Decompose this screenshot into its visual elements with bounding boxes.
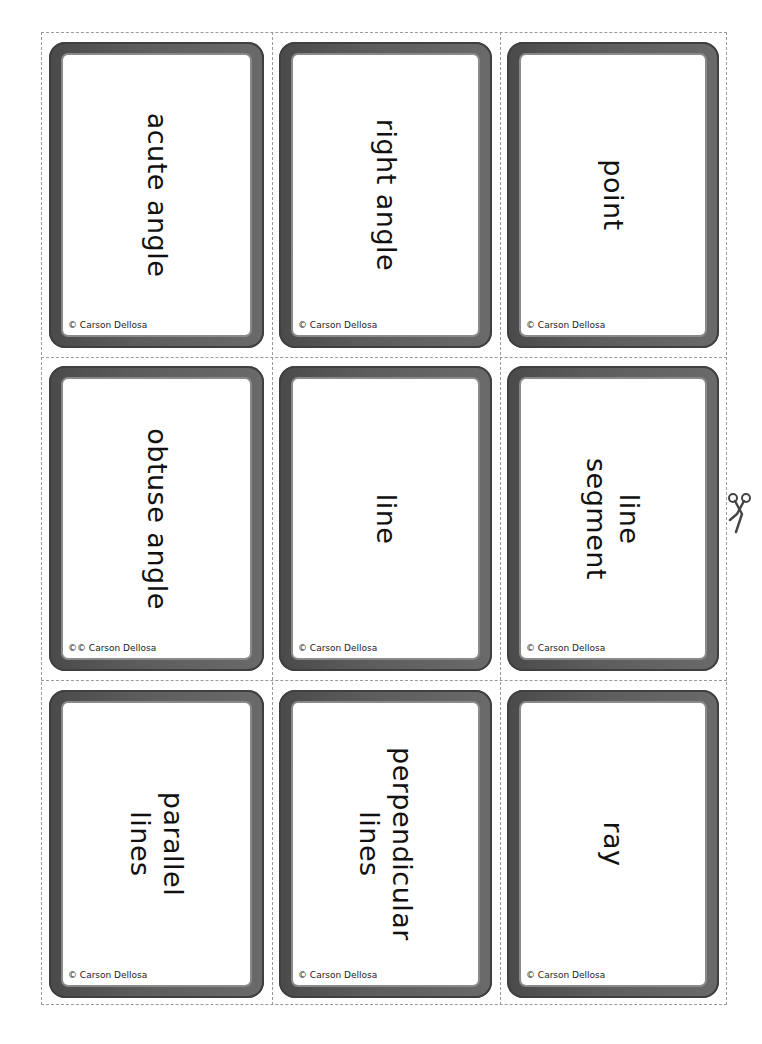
card-face: right angle © Carson Dellosa [293,55,478,335]
copyright-text: © Carson Dellosa [298,320,377,330]
copyright-text: © Carson Dellosa [526,320,605,330]
card-term: right angle [369,119,402,271]
flash-card-line: line © Carson Dellosa [279,366,492,671]
card-face: perpendicular lines © Carson Dellosa [293,703,478,985]
cut-line-horizontal-1 [41,357,727,358]
flash-card-right-angle: right angle © Carson Dellosa [279,42,492,348]
cut-line-vertical-2 [500,32,501,1005]
card-term: line [369,493,402,544]
card-term: ray [597,821,630,866]
flash-card-perpendicular-lines: perpendicular lines © Carson Dellosa [279,690,492,998]
cut-line-vertical-1 [272,32,273,1005]
card-face: parallel lines © Carson Dellosa [63,703,250,985]
card-face: obtuse angle ©© Carson Dellosa [63,379,250,658]
card-term: parallel lines [124,792,190,896]
copyright-text: © Carson Dellosa [526,970,605,980]
copyright-text: © Carson Dellosa [68,320,147,330]
copyright-text: © Carson Dellosa [526,643,605,653]
card-face: line segment © Carson Dellosa [521,379,705,658]
copyright-text: ©© Carson Dellosa [68,643,156,653]
copyright-text: © Carson Dellosa [68,970,147,980]
card-face: ray © Carson Dellosa [521,703,705,985]
card-term: line segment [580,458,646,580]
flash-card-point: point © Carson Dellosa [507,42,719,348]
card-term: point [597,159,630,230]
flash-card-line-segment: line segment © Carson Dellosa [507,366,719,671]
flash-card-obtuse-angle: obtuse angle ©© Carson Dellosa [49,366,264,671]
flash-card-parallel-lines: parallel lines © Carson Dellosa [49,690,264,998]
flash-card-ray: ray © Carson Dellosa [507,690,719,998]
flash-card-acute-angle: acute angle © Carson Dellosa [49,42,264,348]
card-term: acute angle [140,113,173,278]
card-term: perpendicular lines [353,747,419,941]
scissors-icon [726,492,754,536]
cut-line-horizontal-2 [41,680,727,681]
card-face: point © Carson Dellosa [521,55,705,335]
copyright-text: © Carson Dellosa [298,970,377,980]
card-face: acute angle © Carson Dellosa [63,55,250,335]
card-face: line © Carson Dellosa [293,379,478,658]
card-term: obtuse angle [140,428,173,610]
copyright-text: © Carson Dellosa [298,643,377,653]
